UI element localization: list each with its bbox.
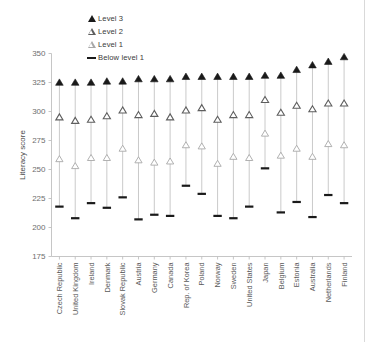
marker-level-1 bbox=[261, 130, 268, 136]
marker-level-3 bbox=[103, 78, 111, 84]
x-tick-label: Estonia bbox=[292, 262, 301, 288]
data-point-column bbox=[103, 78, 111, 208]
marker-level-2 bbox=[87, 116, 94, 122]
marker-level-2 bbox=[277, 109, 284, 115]
marker-level-1 bbox=[87, 155, 94, 161]
chart-figure: Level 3 Level 2 Level 1 Below level 1 17… bbox=[0, 0, 365, 342]
marker-level-3 bbox=[71, 79, 79, 85]
marker-level-3 bbox=[56, 79, 64, 85]
data-point-column bbox=[118, 78, 126, 198]
x-tick-label: Belgium bbox=[277, 263, 286, 290]
marker-level-1 bbox=[167, 158, 174, 164]
x-tick-label: Czech Republic bbox=[55, 262, 64, 314]
x-tick-label: Finland bbox=[340, 263, 349, 287]
data-point-column bbox=[340, 53, 348, 203]
x-tick-label: Germany bbox=[150, 262, 159, 293]
marker-level-3 bbox=[309, 62, 317, 68]
y-tick-label: 325 bbox=[32, 78, 46, 87]
x-tick-label: United States bbox=[245, 262, 254, 307]
marker-level-3 bbox=[135, 75, 143, 81]
marker-level-2 bbox=[135, 112, 142, 118]
data-point-column bbox=[308, 62, 316, 218]
marker-level-3 bbox=[245, 73, 253, 79]
data-point-column bbox=[277, 72, 285, 212]
marker-level-3 bbox=[277, 72, 285, 78]
data-point-column bbox=[245, 73, 253, 207]
marker-level-1 bbox=[119, 145, 126, 151]
x-tick-label: Slovak Republic bbox=[118, 262, 127, 315]
marker-level-3 bbox=[198, 73, 206, 79]
marker-level-3 bbox=[182, 73, 190, 79]
data-point-column bbox=[166, 75, 174, 215]
marker-level-3 bbox=[119, 78, 127, 84]
marker-level-3 bbox=[166, 75, 174, 81]
y-tick-label: 200 bbox=[32, 223, 46, 232]
data-point-column bbox=[324, 58, 332, 195]
marker-level-2 bbox=[56, 114, 63, 120]
data-point-column bbox=[150, 75, 158, 214]
x-tick-label: Sweden bbox=[229, 263, 238, 290]
marker-level-1 bbox=[309, 153, 316, 159]
marker-level-1 bbox=[246, 155, 253, 161]
x-tick-label: Norway bbox=[213, 262, 222, 287]
marker-level-2 bbox=[167, 114, 174, 120]
marker-level-2 bbox=[261, 97, 268, 103]
data-point-column bbox=[134, 75, 142, 219]
data-point-column bbox=[55, 79, 63, 207]
marker-level-2 bbox=[325, 100, 332, 106]
marker-level-2 bbox=[246, 112, 253, 118]
marker-level-2 bbox=[198, 105, 205, 111]
marker-level-3 bbox=[340, 53, 348, 59]
marker-level-3 bbox=[87, 79, 95, 85]
y-tick-label: 300 bbox=[32, 107, 46, 116]
y-tick-label: 275 bbox=[32, 136, 46, 145]
marker-level-3 bbox=[151, 75, 159, 81]
x-tick-label: Rep. of Korea bbox=[182, 262, 191, 308]
marker-level-1 bbox=[277, 152, 284, 158]
marker-level-2 bbox=[103, 113, 110, 119]
plot-area: 175200225250275300325350 Czech RepublicU… bbox=[0, 0, 365, 342]
marker-level-1 bbox=[325, 141, 332, 147]
marker-level-1 bbox=[214, 160, 221, 166]
data-series bbox=[55, 53, 348, 219]
y-axis: 175200225250275300325350 bbox=[32, 49, 51, 261]
marker-level-1 bbox=[198, 143, 205, 149]
marker-level-3 bbox=[324, 58, 332, 64]
data-point-column bbox=[182, 73, 190, 186]
y-tick-label: 225 bbox=[32, 194, 46, 203]
marker-level-1 bbox=[135, 157, 142, 163]
x-tick-label: Japan bbox=[261, 263, 270, 283]
marker-level-1 bbox=[103, 155, 110, 161]
x-tick-label: Poland bbox=[197, 263, 206, 286]
x-tick-label: Denmark bbox=[103, 262, 112, 292]
y-tick-label: 175 bbox=[32, 252, 46, 261]
x-tick-label: United Kingdom bbox=[71, 263, 80, 316]
marker-level-2 bbox=[340, 100, 347, 106]
y-tick-label: 350 bbox=[32, 49, 46, 58]
data-point-column bbox=[213, 73, 221, 216]
data-point-column bbox=[198, 73, 206, 194]
data-point-column bbox=[292, 66, 300, 202]
marker-level-2 bbox=[293, 102, 300, 108]
marker-level-3 bbox=[293, 66, 301, 72]
x-axis: Czech RepublicUnited KingdomIrelandDenma… bbox=[52, 257, 353, 316]
marker-level-2 bbox=[214, 116, 221, 122]
marker-level-2 bbox=[230, 112, 237, 118]
marker-level-1 bbox=[182, 142, 189, 148]
x-tick-label: Ireland bbox=[87, 263, 96, 286]
marker-level-1 bbox=[230, 153, 237, 159]
marker-level-1 bbox=[72, 163, 79, 169]
data-point-column bbox=[229, 73, 237, 218]
marker-level-1 bbox=[293, 145, 300, 151]
marker-level-3 bbox=[230, 73, 238, 79]
marker-level-1 bbox=[56, 156, 63, 162]
x-tick-label: Netherlands bbox=[324, 262, 333, 302]
marker-level-1 bbox=[340, 142, 347, 148]
y-axis-title: Literacy score bbox=[18, 130, 27, 180]
data-point-column bbox=[87, 79, 95, 203]
marker-level-2 bbox=[182, 107, 189, 113]
marker-level-3 bbox=[214, 73, 222, 79]
y-tick-label: 250 bbox=[32, 165, 46, 174]
marker-level-2 bbox=[151, 110, 158, 116]
x-tick-label: Canada bbox=[166, 262, 175, 289]
